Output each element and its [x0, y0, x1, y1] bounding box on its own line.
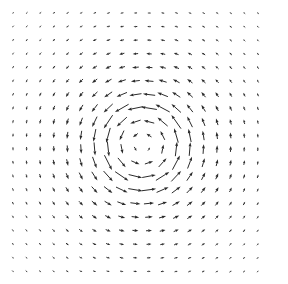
vector-field-figure	[0, 0, 288, 284]
quiver-plot-canvas	[0, 0, 288, 284]
